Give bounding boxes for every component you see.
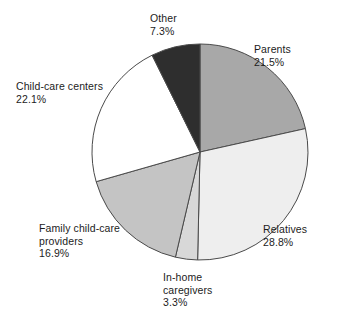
- pie-chart: Other 7.3% Parents 21.5% Relatives 28.8%…: [0, 0, 355, 316]
- pie-label-family-child-care-providers-name-line2: providers: [39, 235, 120, 248]
- pie-chart-canvas: [0, 0, 355, 316]
- pie-label-child-care-centers: Child-care centers 22.1%: [16, 80, 103, 105]
- pie-label-relatives-name: Relatives: [263, 223, 307, 236]
- pie-label-parents-name: Parents: [254, 43, 291, 56]
- pie-label-other-percent: 7.3%: [150, 25, 177, 38]
- pie-label-family-child-care-providers: Family child-care providers 16.9%: [39, 222, 120, 260]
- pie-label-in-home-caregivers-name-line2: caregivers: [163, 284, 212, 297]
- pie-label-other-name: Other: [150, 12, 177, 25]
- pie-label-relatives: Relatives 28.8%: [263, 223, 307, 248]
- pie-label-in-home-caregivers-percent: 3.3%: [163, 296, 212, 309]
- pie-label-family-child-care-providers-percent: 16.9%: [39, 247, 120, 260]
- pie-label-child-care-centers-name: Child-care centers: [16, 80, 103, 93]
- pie-label-in-home-caregivers-name-line1: In-home: [163, 271, 212, 284]
- pie-label-parents-percent: 21.5%: [254, 56, 291, 69]
- pie-label-other: Other 7.3%: [150, 12, 177, 37]
- pie-label-parents: Parents 21.5%: [254, 43, 291, 68]
- pie-label-in-home-caregivers: In-home caregivers 3.3%: [163, 271, 212, 309]
- pie-label-relatives-percent: 28.8%: [263, 236, 307, 249]
- pie-label-family-child-care-providers-name-line1: Family child-care: [39, 222, 120, 235]
- pie-label-child-care-centers-percent: 22.1%: [16, 93, 103, 106]
